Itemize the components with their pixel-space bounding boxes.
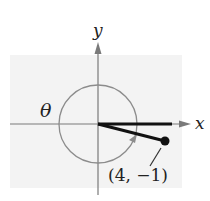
y-axis-arrow-icon (95, 42, 102, 54)
point-marker (161, 137, 170, 146)
x-axis-arrow-icon (179, 121, 191, 128)
y-axis-label: y (92, 20, 103, 40)
point-label: (4, −1) (108, 165, 168, 185)
x-axis-label: x (195, 113, 205, 133)
angle-label: θ (40, 99, 52, 121)
diagram-canvas: y x θ (4, −1) (0, 0, 210, 201)
